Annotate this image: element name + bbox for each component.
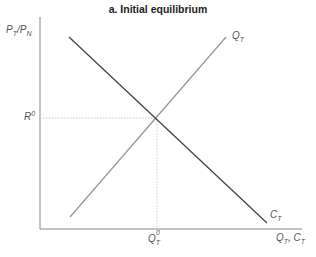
y-axis-label: PT/PN	[6, 24, 31, 37]
chart-plot	[0, 0, 316, 257]
supply-curve-qt	[70, 37, 226, 217]
eq-qty-label: QT0	[148, 232, 160, 246]
demand-curve-ct	[69, 37, 267, 223]
eq-price-label: R0	[24, 110, 35, 122]
demand-curve-label: CT	[270, 209, 282, 222]
supply-curve-label: QT	[232, 30, 244, 43]
x-axis-label: QT, CT	[276, 232, 305, 245]
